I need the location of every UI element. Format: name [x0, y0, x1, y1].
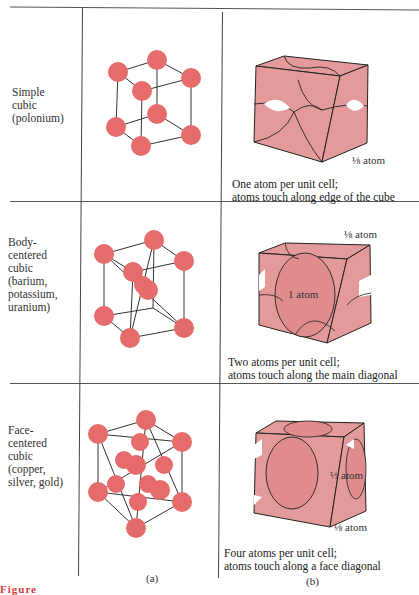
bcc-corner-annotation: ⅛ atom: [344, 228, 377, 240]
figure-caption-fragment: Figure: [0, 583, 37, 595]
row-label-fcc: Face- centered cubic (copper, silver, go…: [8, 424, 63, 489]
row-divider-2: [10, 383, 419, 384]
row-label-bcc: Body- centered cubic (barium, potassium,…: [8, 236, 58, 314]
fcc-caption: Four atoms per unit cell; atoms touch al…: [224, 547, 381, 573]
simple-cubic-lattice-diagram: [90, 40, 230, 180]
panel-b-label: (b): [306, 575, 319, 587]
fcc-unit-cell-solid: [250, 415, 390, 545]
bcc-caption: Two atoms per unit cell; atoms touch alo…: [228, 356, 398, 382]
bcc-unit-cell-solid: [255, 235, 395, 365]
fcc-lattice-diagram: [84, 410, 214, 550]
fcc-face-annotation: ½ atom: [330, 469, 363, 481]
row-label-simple-cubic: Simple cubic (polonium): [12, 86, 64, 125]
top-rule: [10, 7, 419, 11]
fcc-corner-annotation: ⅛ atom: [334, 521, 367, 533]
sc-corner-annotation: ⅛ atom: [352, 154, 385, 166]
column-divider-1: [78, 8, 83, 576]
panel-a-label: (a): [146, 572, 158, 584]
bcc-lattice-diagram: [88, 228, 228, 378]
sc-caption: One atom per unit cell; atoms touch alon…: [232, 178, 395, 204]
bcc-center-annotation: 1 atom: [288, 288, 318, 300]
